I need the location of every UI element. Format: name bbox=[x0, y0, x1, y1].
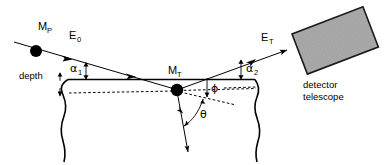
incident-energy-subscript: 0 bbox=[77, 35, 81, 44]
target-atom-dot bbox=[171, 84, 183, 96]
projectile-mass-subscript: P bbox=[47, 26, 52, 35]
depth-marker-arrow-down bbox=[58, 91, 63, 96]
phi-horizontal-dashed-extension bbox=[224, 87, 256, 88]
theta-arc-arrowhead-lower bbox=[183, 120, 188, 126]
depth-marker-arrow-up bbox=[58, 72, 63, 76]
alpha2-tick-arrow-top bbox=[238, 60, 243, 64]
alpha1-symbol: α bbox=[70, 62, 77, 75]
incident-energy-text: E bbox=[69, 29, 76, 41]
alpha2-symbol: α bbox=[246, 62, 253, 75]
diagram-canvas: M P E 0 M T E T α 1 α 2 ϕ θ bbox=[0, 0, 385, 165]
alpha2-subscript: 2 bbox=[254, 68, 258, 77]
exit-energy-subscript: T bbox=[269, 37, 274, 46]
scattering-geometry-diagram: M P E 0 M T E T α 1 α 2 ϕ θ bbox=[0, 0, 385, 165]
sample-left-break-edge bbox=[61, 80, 68, 163]
phi-symbol: ϕ bbox=[211, 82, 218, 95]
projectile-mass-label: M P bbox=[38, 20, 52, 35]
target-mass-text: M bbox=[168, 64, 177, 76]
sample-right-break-edge bbox=[255, 80, 260, 163]
depth-plane-dashed-left bbox=[69, 91, 176, 93]
incident-energy-label: E 0 bbox=[69, 29, 81, 44]
alpha1-subscript: 1 bbox=[78, 68, 82, 77]
incoming-beam-arrowhead-2 bbox=[126, 74, 136, 80]
projectile-particle-dot bbox=[30, 45, 42, 57]
exit-energy-text: E bbox=[261, 31, 268, 43]
alpha2-label: α 2 bbox=[246, 62, 258, 77]
detector-telescope-shape bbox=[292, 7, 378, 74]
detector-caption-line1: detector bbox=[303, 79, 337, 90]
alpha1-label: α 1 bbox=[70, 62, 82, 77]
exit-energy-label: E T bbox=[261, 31, 274, 46]
detector-telescope-rect bbox=[292, 7, 378, 74]
depth-label: depth bbox=[19, 70, 43, 81]
outgoing-beam-ray bbox=[177, 50, 287, 90]
theta-symbol: θ bbox=[200, 108, 207, 121]
target-mass-subscript: T bbox=[177, 70, 182, 79]
detector-caption-line2: telescope bbox=[303, 91, 344, 102]
projectile-mass-text: M bbox=[38, 20, 47, 32]
target-mass-label: M T bbox=[168, 64, 182, 79]
phi-vertical-arrow bbox=[205, 93, 210, 98]
